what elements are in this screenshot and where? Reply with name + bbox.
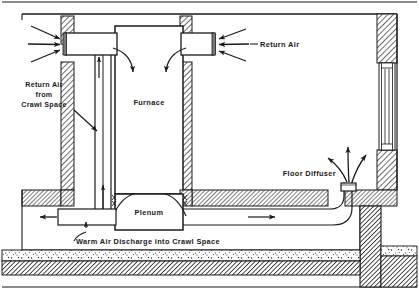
ground-layers — [2, 250, 360, 275]
floor-slab — [22, 190, 397, 206]
furnace-cabinet: Furnace — [115, 26, 183, 194]
return-air-right-leader: Return Air — [250, 40, 299, 49]
crawl-space-return-riser — [95, 55, 111, 214]
return-air-label: Return Air — [260, 40, 299, 49]
return-air-crawl-label-group: Return Air from Crawl Space — [21, 81, 97, 131]
return-air-crawl-line3: Crawl Space — [21, 101, 67, 109]
foundation-wall-right — [360, 206, 417, 287]
first-floor-room — [22, 14, 397, 20]
plenum-label: Plenum — [135, 208, 164, 217]
plenum-box: Plenum — [112, 194, 187, 230]
exterior-wall-right — [377, 14, 397, 190]
hvac-crawl-space-diagram: Furnace Return Air — [0, 0, 419, 289]
warm-air-discharge-label: Warm Air Discharge into Crawl Space — [76, 237, 220, 246]
diagram-canvas: Furnace Return Air — [0, 0, 419, 289]
floor-diffuser-label: Floor Diffuser — [283, 169, 336, 178]
return-air-crawl-line2: from — [36, 91, 53, 99]
return-air-inflow-arrows-right — [219, 29, 249, 61]
return-air-inflow-arrows-left — [28, 26, 60, 62]
furnace-label: Furnace — [133, 98, 164, 107]
return-air-crawl-line1: Return Air — [25, 81, 62, 89]
left-return-duct-horizontal — [63, 33, 117, 55]
warm-air-discharge-duct — [40, 209, 116, 228]
right-return-duct-horizontal — [181, 33, 216, 55]
warm-air-discharge-label-group: Warm Air Discharge into Crawl Space — [74, 232, 220, 246]
floor-diffuser: Floor Diffuser — [283, 147, 366, 191]
window-right-wall — [379, 63, 395, 150]
